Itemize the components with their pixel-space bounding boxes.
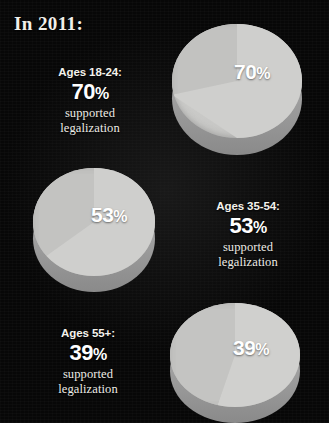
pie-chart-ages-18-24: 70% <box>172 24 302 155</box>
pie-value-percent-sign: % <box>256 65 270 82</box>
pie-value-label-ages-55-plus: 39% <box>233 336 269 360</box>
pie-value-number: 53 <box>91 203 113 226</box>
supported-text: supported <box>22 367 154 381</box>
percent-value: 39% <box>22 341 154 366</box>
label-block-ages-55-plus: Ages 55+: 39% supported legalization <box>22 327 154 396</box>
pie-chart-ages-35-54: 53% <box>33 168 155 292</box>
percent-number: 53 <box>229 213 252 238</box>
percent-value: 70% <box>30 80 150 105</box>
pie-value-percent-sign: % <box>255 341 269 358</box>
legalization-text: legalization <box>30 121 150 135</box>
pie-value-number: 70 <box>234 60 256 83</box>
legalization-text: legalization <box>183 255 313 269</box>
pie-chart-ages-55-plus: 39% <box>170 303 300 423</box>
age-group-label: Ages 18-24: <box>30 66 150 79</box>
supported-text: supported <box>183 240 313 254</box>
pie-value-label-ages-18-24: 70% <box>234 60 270 84</box>
pie-value-percent-sign: % <box>113 208 127 225</box>
percent-sign: % <box>93 346 107 363</box>
supported-text: supported <box>30 106 150 120</box>
legalization-text: legalization <box>22 382 154 396</box>
pie-value-label-ages-35-54: 53% <box>91 203 127 227</box>
page-title: In 2011: <box>14 13 83 35</box>
label-block-ages-35-54: Ages 35-54: 53% supported legalization <box>183 200 313 269</box>
percent-sign: % <box>253 219 267 236</box>
percent-number: 39 <box>69 340 92 365</box>
percent-sign: % <box>95 85 109 102</box>
age-group-label: Ages 55+: <box>22 327 154 340</box>
infographic-poster: In 2011: 70% Ages 18-24: 70% supported l… <box>0 0 329 423</box>
percent-number: 70 <box>71 79 94 104</box>
age-group-label: Ages 35-54: <box>183 200 313 213</box>
pie-value-number: 39 <box>233 336 255 359</box>
label-block-ages-18-24: Ages 18-24: 70% supported legalization <box>30 66 150 135</box>
percent-value: 53% <box>183 214 313 239</box>
